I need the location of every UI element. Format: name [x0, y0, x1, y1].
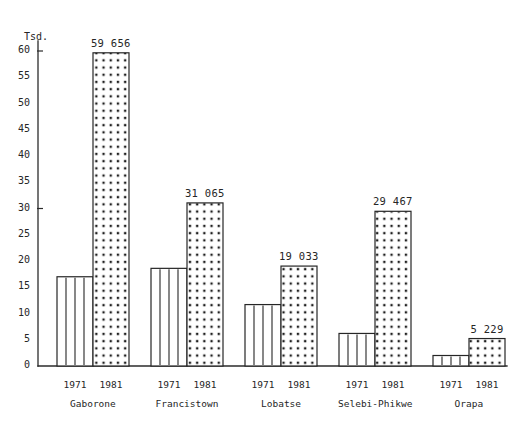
y-tick-label-5: 5: [24, 333, 30, 344]
y-tick-label-50: 50: [18, 97, 30, 108]
x-group-label-selebi-phikwe: Selebi-Phikwe: [338, 398, 412, 409]
x-year-label-gaborone-1971: 1971: [64, 379, 87, 390]
bar-gaborone-1981: [93, 53, 129, 366]
x-year-label-orapa-1981: 1981: [476, 379, 499, 390]
x-group-label-francistown: Francistown: [156, 398, 219, 409]
x-year-label-lobatse-1981: 1981: [288, 379, 311, 390]
y-axis-unit-label: Tsd.: [24, 31, 48, 42]
bar-chart: 051015202530354045505560197159 656198119…: [0, 0, 523, 431]
y-tick-label-10: 10: [18, 307, 30, 318]
x-year-label-gaborone-1981: 1981: [100, 379, 123, 390]
y-tick-label-0: 0: [24, 359, 30, 370]
bar-value-label-lobatse-1981: 19 033: [279, 250, 319, 262]
x-year-label-selebi-phikwe-1981: 1981: [382, 379, 405, 390]
y-tick-label-30: 30: [18, 202, 30, 213]
bar-francistown-1981: [187, 203, 223, 366]
bar-value-label-francistown-1981: 31 065: [185, 187, 225, 199]
x-year-label-orapa-1971: 1971: [440, 379, 463, 390]
bar-value-label-selebi-phikwe-1981: 29 467: [373, 195, 413, 207]
y-tick-label-15: 15: [18, 280, 30, 291]
bar-selebi-phikwe-1981: [375, 211, 411, 366]
y-tick-label-60: 60: [18, 44, 30, 55]
bar-value-label-gaborone-1981: 59 656: [91, 37, 131, 49]
x-year-label-selebi-phikwe-1971: 1971: [346, 379, 369, 390]
y-tick-label-35: 35: [18, 175, 30, 186]
x-group-label-lobatse: Lobatse: [261, 398, 301, 409]
y-tick-label-45: 45: [18, 123, 30, 134]
y-tick-label-55: 55: [18, 70, 30, 81]
y-tick-label-20: 20: [18, 254, 30, 265]
y-tick-label-25: 25: [18, 228, 30, 239]
x-group-label-gaborone: Gaborone: [70, 398, 116, 409]
chart-canvas: [0, 0, 523, 431]
bar-value-label-orapa-1981: 5 229: [471, 323, 504, 335]
bar-lobatse-1981: [281, 266, 317, 366]
x-group-label-orapa: Orapa: [455, 398, 484, 409]
x-year-label-lobatse-1971: 1971: [252, 379, 275, 390]
x-year-label-francistown-1981: 1981: [194, 379, 217, 390]
y-tick-label-40: 40: [18, 149, 30, 160]
bar-orapa-1981: [469, 339, 505, 366]
x-year-label-francistown-1971: 1971: [158, 379, 181, 390]
